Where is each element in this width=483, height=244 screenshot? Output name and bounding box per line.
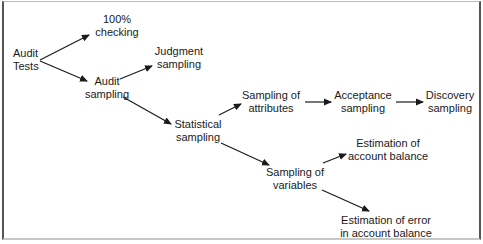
node-audit-sampling: Audit sampling bbox=[82, 75, 132, 101]
node-line: Acceptance bbox=[332, 89, 394, 102]
node-line: checking bbox=[92, 26, 142, 39]
node-line: Discovery bbox=[421, 89, 479, 102]
node-100-checking: 100% checking bbox=[92, 13, 142, 39]
node-line: Audit bbox=[82, 75, 132, 88]
node-line: Estimation of bbox=[348, 137, 428, 150]
node-line: Sampling of bbox=[240, 89, 302, 102]
edge-audit-tests-to-audit-sampling bbox=[40, 61, 87, 81]
node-line: Tests bbox=[13, 60, 39, 73]
node-line: Audit bbox=[13, 47, 39, 60]
node-audit-tests: Audit Tests bbox=[13, 47, 39, 73]
node-line: in account balance bbox=[336, 227, 436, 240]
node-sampling-attributes: Sampling of attributes bbox=[240, 89, 302, 115]
node-line: Statistical bbox=[170, 118, 226, 131]
edge-audit-sampling-to-statistical bbox=[123, 97, 171, 124]
edge-audit-tests-to-100-checking bbox=[40, 35, 89, 60]
node-statistical-sampling: Statistical sampling bbox=[170, 118, 226, 144]
node-line: sampling bbox=[170, 131, 226, 144]
diagram-edges bbox=[0, 0, 483, 244]
node-sampling-variables: Sampling of variables bbox=[262, 166, 328, 192]
node-estimation-error: Estimation of error in account balance bbox=[336, 214, 436, 240]
edge-statistical-to-variables bbox=[221, 143, 269, 165]
node-line: Judgment bbox=[153, 45, 205, 58]
node-discovery-sampling: Discovery sampling bbox=[421, 89, 479, 115]
node-line: attributes bbox=[240, 102, 302, 115]
edge-statistical-to-attributes bbox=[219, 104, 241, 115]
edge-variables-to-est-balance bbox=[323, 154, 346, 163]
node-judgment-sampling: Judgment sampling bbox=[153, 45, 205, 71]
node-estimation-balance: Estimation of account balance bbox=[348, 137, 428, 163]
node-acceptance-sampling: Acceptance sampling bbox=[332, 89, 394, 115]
node-line: sampling bbox=[153, 58, 205, 71]
node-line: Sampling of bbox=[262, 166, 328, 179]
node-line: sampling bbox=[332, 102, 394, 115]
node-line: variables bbox=[262, 179, 328, 192]
edge-variables-to-est-error bbox=[322, 190, 369, 211]
node-line: 100% bbox=[92, 13, 142, 26]
node-line: sampling bbox=[82, 88, 132, 101]
node-line: account balance bbox=[348, 150, 428, 163]
node-line: Estimation of error bbox=[336, 214, 436, 227]
node-line: sampling bbox=[421, 102, 479, 115]
